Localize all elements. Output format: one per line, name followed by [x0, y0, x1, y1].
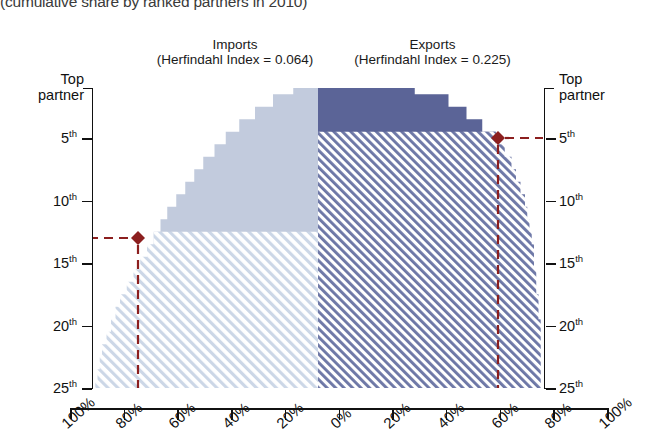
y-axis-tick-label: 5th [0, 128, 77, 146]
tick-number: 20 [53, 317, 69, 333]
y-axis-tick-label: 15th [559, 253, 583, 271]
exports-hatched-area [318, 132, 541, 388]
y-axis-label-top-partner: Toppartner [0, 72, 84, 103]
top-partner-line1: Top [61, 71, 84, 87]
tick-number: 5 [61, 130, 69, 146]
y-axis-tick [546, 138, 556, 140]
top-partner-line1: Top [559, 71, 582, 87]
top-partner-line2: partner [559, 87, 605, 103]
x-axis-tick-label: 60% [488, 399, 522, 432]
y-axis-tick-label: 5th [559, 128, 575, 146]
x-axis-tick-label: 40% [434, 399, 468, 432]
y-axis-tick-label: 20th [559, 316, 583, 334]
tick-ordinal-suffix: th [567, 128, 575, 139]
y-axis-tick [546, 326, 556, 328]
tick-ordinal-suffix: th [575, 191, 583, 202]
imports-solid-area [154, 88, 318, 244]
y-axis-tick [82, 326, 92, 328]
tick-ordinal-suffix: th [69, 128, 77, 139]
y-axis-tick [82, 263, 92, 265]
tick-number: 15 [559, 255, 575, 271]
x-axis-tick-label: 20% [273, 399, 307, 432]
page-title: (cumulative share by ranked partners in … [0, 0, 655, 11]
y-axis-tick [546, 201, 556, 203]
x-axis-tick-label: 20% [380, 399, 414, 432]
tick-number: 20 [559, 317, 575, 333]
exports-panel-header: Exports (Herfindahl Index = 0.225) [325, 37, 540, 67]
y-axis-tick [546, 263, 556, 265]
x-axis-tick-label: 100% [595, 393, 635, 431]
y-axis-tick-label: 10th [559, 191, 583, 209]
tick-number: 10 [559, 192, 575, 208]
y-axis-tick [82, 201, 92, 203]
y-axis-tick-label: 10th [0, 191, 77, 209]
tick-number: 15 [53, 255, 69, 271]
top-partner-line2: partner [38, 87, 84, 103]
tick-ordinal-suffix: th [575, 316, 583, 327]
exports-label: Exports [325, 37, 540, 52]
tick-ordinal-suffix: th [575, 253, 583, 264]
imports-hatched-area [95, 232, 318, 388]
imports-label: Imports [140, 37, 330, 52]
tick-ordinal-suffix: th [69, 253, 77, 264]
x-axis-tick-label: 80% [112, 399, 146, 432]
y-axis-tick [82, 138, 92, 140]
x-axis-tick-label: 40% [219, 399, 253, 432]
y-axis-tick [546, 388, 556, 390]
x-axis-tick-label: 60% [165, 399, 199, 432]
y-axis-tick-label: 15th [0, 253, 77, 271]
x-axis-tick-label: 100% [58, 393, 98, 431]
y-axis-right-spine [544, 88, 545, 389]
tick-ordinal-suffix: th [69, 378, 77, 389]
tick-ordinal-suffix: th [575, 378, 583, 389]
tick-number: 10 [53, 192, 69, 208]
y-axis-left-spine [92, 88, 93, 389]
imports-herfindahl-index: (Herfindahl Index = 0.064) [140, 52, 330, 67]
imports-panel-header: Imports (Herfindahl Index = 0.064) [140, 37, 330, 67]
y-axis-cap [83, 88, 92, 89]
tick-number: 25 [53, 380, 69, 396]
tick-number: 5 [559, 130, 567, 146]
y-axis-tick-label: 25th [0, 378, 77, 396]
y-axis-tick-label: 25th [559, 378, 583, 396]
y-axis-cap [545, 88, 554, 89]
x-axis-tick-label: 80% [541, 399, 575, 432]
chart-svg [93, 88, 543, 388]
exports-herfindahl-index: (Herfindahl Index = 0.225) [325, 52, 540, 67]
tick-ordinal-suffix: th [69, 191, 77, 202]
tick-number: 25 [559, 380, 575, 396]
chart-plot-area [93, 88, 543, 388]
tick-ordinal-suffix: th [69, 316, 77, 327]
imports-data-marker[interactable] [131, 231, 145, 245]
y-axis-tick [82, 388, 92, 390]
y-axis-tick-label: 20th [0, 316, 77, 334]
y-axis-label-top-partner: Toppartner [559, 72, 651, 103]
